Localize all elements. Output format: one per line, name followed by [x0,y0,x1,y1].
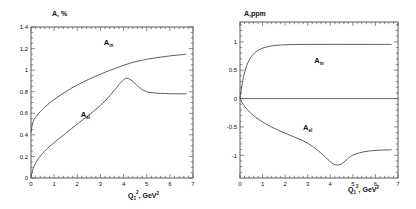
x-axis-title-subscript-right: 1 [353,190,356,195]
y-tick-label: -1 [232,153,238,159]
curve-label-subscript: in [109,43,113,48]
y-tick-label: 0 [234,96,238,102]
plot-frame-left [31,27,193,178]
x-axis-ticks-left [31,27,193,178]
y-tick-label: 0 [25,175,29,181]
y-axis-title-left: A, % [52,10,68,18]
x-axis-tick-labels-left: 01234567 [29,181,195,187]
curve-a-el [240,99,391,165]
x-axis-title-left: Q12, GeV2 [128,190,159,201]
data-curves-left [31,54,186,176]
x-tick-label: 6 [168,181,172,187]
x-tick-label: 1 [261,181,265,187]
x-axis-title-unit-exponent-right: 2 [376,185,379,190]
y-tick-label: 1 [25,67,29,73]
x-tick-label: 1 [52,181,56,187]
y-tick-label: 0.8 [20,89,29,95]
y-tick-label: 0.2 [20,154,29,160]
x-axis-ticks-right [240,22,398,178]
x-tick-label: 7 [396,181,400,187]
x-tick-label: 2 [76,181,80,187]
y-axis-ticks-left [31,27,193,178]
figure-container: 01234567 00.20.40.60.811.21.4 AinAel A, … [0,0,416,209]
x-tick-label: 3 [306,181,310,187]
y-axis-tick-labels-left: 00.20.40.60.811.21.4 [20,24,29,181]
chart-svg-left: 01234567 00.20.40.60.811.21.4 AinAel A, … [0,0,208,209]
x-tick-label: 0 [238,181,242,187]
curve-label-subscript: el [309,128,313,133]
x-tick-label: 2 [283,181,287,187]
y-tick-label: 0.6 [20,110,29,116]
chart-panel-left: 01234567 00.20.40.60.811.21.4 AinAel A, … [0,0,208,209]
x-axis-title-unit-exponent-left: 2 [156,191,159,196]
curve-a-el [31,78,186,176]
y-tick-label: 0.4 [20,132,29,138]
x-tick-label: 7 [191,181,195,187]
chart-panel-right: 01234567 -1-0.500.51 AinAel A,ppm Q12, G… [208,0,416,209]
y-tick-label: 1.2 [20,46,29,52]
chart-svg-right: 01234567 -1-0.500.51 AinAel A,ppm Q12, G… [208,0,416,209]
x-axis-title-unit-right: , GeV [359,186,377,194]
curve-label-a-el: Ael [81,110,90,120]
curve-labels-right: AinAel [303,56,324,134]
y-tick-label: -0.5 [227,124,238,130]
x-tick-label: 4 [329,181,333,187]
x-axis-title-unit-left: , GeV [139,192,157,200]
x-axis-title-right: Q12, GeV2 [348,184,379,195]
y-tick-label: 1.4 [20,24,29,30]
x-tick-label: 4 [122,181,126,187]
curve-label-subscript: el [86,115,90,120]
x-tick-label: 0 [29,181,33,187]
plot-frame-right [240,22,398,178]
x-axis-title-subscript-left: 1 [133,196,136,201]
curve-label-a-in: Ain [104,38,114,48]
y-tick-label: 1 [234,39,238,45]
curve-label-a-el: Ael [303,123,312,133]
y-axis-tick-labels-right: -1-0.500.51 [227,39,238,158]
x-tick-label: 5 [145,181,149,187]
curve-label-a-in: Ain [314,56,324,66]
x-tick-label: 3 [99,181,103,187]
curve-a-in [240,44,391,98]
y-axis-title-right: A,ppm [244,10,266,18]
y-tick-label: 0.5 [229,67,238,73]
curve-label-subscript: in [320,61,324,66]
